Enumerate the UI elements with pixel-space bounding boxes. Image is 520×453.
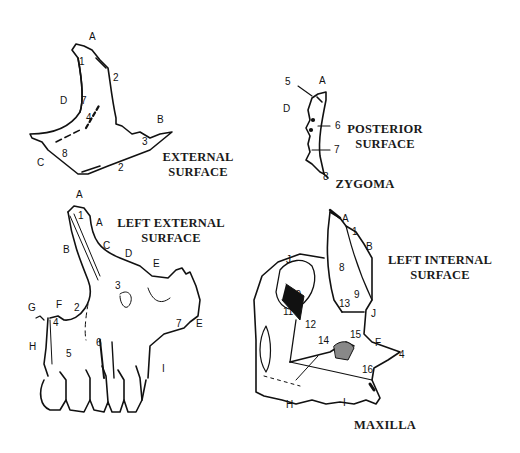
title-line1: EXTERNAL (158, 150, 238, 165)
label-2-upper: 2 (113, 73, 119, 83)
label-1: 1 (78, 211, 84, 221)
label-g: G (28, 303, 36, 313)
label-3: 3 (142, 137, 148, 147)
zygoma-external-drawing (30, 44, 172, 174)
label-c: C (37, 158, 44, 168)
label-15: 15 (350, 330, 361, 340)
title-left-external-surface: LEFT EXTERNAL SURFACE (113, 216, 229, 246)
label-4: 4 (53, 318, 59, 328)
label-16: 16 (362, 365, 373, 375)
label-7: 7 (334, 145, 340, 155)
label-8: 8 (339, 263, 345, 273)
maxilla-zygoma-diagram (0, 0, 520, 453)
label-4: 4 (399, 350, 405, 360)
label-j-upper: J (286, 255, 291, 265)
title-posterior-surface: POSTERIOR SURFACE (346, 122, 424, 152)
label-6: 6 (96, 338, 102, 348)
label-8: 8 (323, 172, 329, 182)
label-f: F (56, 300, 62, 310)
title-line2: SURFACE (382, 268, 498, 283)
label-5: 5 (66, 349, 72, 359)
label-2: 2 (74, 303, 80, 313)
label-9: 9 (354, 290, 360, 300)
label-i: I (343, 398, 346, 408)
label-6: 6 (335, 121, 341, 131)
title-external-surface: EXTERNAL SURFACE (158, 150, 238, 180)
label-11: 11 (283, 307, 293, 317)
label-3: 3 (115, 281, 121, 291)
title-line2: SURFACE (346, 137, 424, 152)
maxilla-internal-drawing (254, 210, 400, 404)
label-d: D (125, 249, 132, 259)
label-a: A (342, 214, 349, 224)
label-2-lower: 2 (118, 163, 124, 173)
label-j-lower: J (371, 309, 376, 319)
label-a-top: A (76, 190, 83, 200)
label-5: 5 (285, 77, 291, 87)
label-i: I (162, 364, 165, 374)
label-h: H (29, 342, 36, 352)
label-b: B (157, 115, 164, 125)
label-a-top: A (89, 32, 96, 42)
label-b: B (366, 242, 373, 252)
title-line2: SURFACE (158, 165, 238, 180)
title-line1: POSTERIOR (346, 122, 424, 137)
title-left-internal-surface: LEFT INTERNAL SURFACE (382, 253, 498, 283)
caption-zygoma: ZYGOMA (330, 177, 400, 192)
label-f: F (375, 338, 381, 348)
caption-maxilla: MAXILLA (350, 418, 420, 433)
label-d: D (60, 96, 67, 106)
label-1: 1 (79, 57, 85, 67)
label-d: D (283, 104, 290, 114)
zygoma-posterior-drawing (298, 86, 330, 178)
label-12: 12 (305, 320, 316, 330)
label-1: 1 (352, 227, 358, 237)
label-a: A (319, 76, 326, 86)
title-line2: SURFACE (113, 231, 229, 246)
label-8: 8 (62, 149, 68, 159)
label-14: 14 (318, 336, 329, 346)
label-13: 13 (339, 299, 350, 309)
label-h: H (286, 400, 293, 410)
label-b: B (63, 245, 70, 255)
label-10: 10 (290, 290, 301, 300)
label-e-lower: E (196, 319, 203, 329)
label-c: C (103, 241, 110, 251)
label-7: 7 (176, 319, 182, 329)
label-7: 7 (81, 96, 87, 106)
label-4: 4 (86, 113, 92, 123)
label-a-side: A (96, 218, 103, 228)
title-line1: LEFT EXTERNAL (113, 216, 229, 231)
label-e-upper: E (153, 259, 160, 269)
title-line1: LEFT INTERNAL (382, 253, 498, 268)
